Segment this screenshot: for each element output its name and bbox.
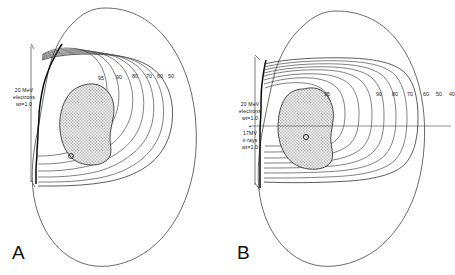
contour-label-60-a: 60 (157, 74, 163, 79)
contour-label-95-a: 95 (98, 76, 104, 81)
contour-label-50-a: 50 (168, 74, 174, 79)
field-bracket-b (255, 55, 260, 60)
contour-label-90-b: 90 (376, 92, 382, 97)
beam-annotation-b: 20 MeV electrons wt=1.0 + 17MV x-rays wt… (229, 101, 271, 151)
panel-b: 20 MeV electrons wt=1.0 + 17MV x-rays wt… (226, 0, 451, 275)
panel-letter-b: B (237, 243, 250, 262)
panel-a: 20 MeV electrons wt=1.0 95 90 80 70 60 5… (0, 0, 225, 275)
contour-label-60-b: 60 (423, 92, 429, 97)
field-bracket-bottom-a (31, 180, 35, 187)
body-outline-a (32, 8, 196, 266)
contour-label-40-b: 40 (449, 92, 455, 97)
contour-label-50-b: 50 (436, 92, 442, 97)
contour-label-95-b: 95 (324, 92, 330, 97)
contour-label-90-a: 90 (116, 75, 122, 80)
panel-a-diagram (0, 0, 225, 275)
panel-letter-a: A (12, 243, 25, 262)
contour-label-80-b: 80 (392, 92, 398, 97)
contour-label-70-b: 70 (407, 92, 413, 97)
target-volume-a (60, 84, 114, 165)
contour-label-70-a: 70 (146, 74, 152, 79)
contour-label-80-a: 80 (132, 74, 138, 79)
field-bracket-a (31, 44, 34, 49)
target-volume-b (278, 88, 333, 169)
beam-annotation-a: 20 MeV electrons wt=1.0 (4, 87, 44, 109)
